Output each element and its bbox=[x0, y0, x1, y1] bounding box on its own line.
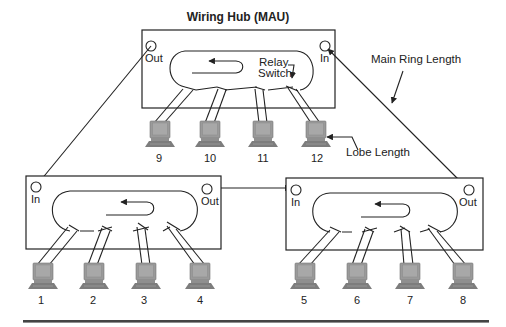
computer-icon bbox=[131, 263, 161, 289]
station-label-6: 6 bbox=[354, 294, 360, 306]
top-hub: Out In Relay Switch bbox=[142, 30, 335, 108]
station-7 bbox=[395, 263, 425, 289]
top-hub-out-label: Out bbox=[145, 52, 163, 64]
station-2 bbox=[79, 263, 109, 289]
computer-icon bbox=[290, 263, 320, 289]
bottom-left-hub-in-label: In bbox=[31, 193, 40, 205]
station-label-10: 10 bbox=[204, 152, 216, 164]
station-label-4: 4 bbox=[197, 294, 203, 306]
station-4 bbox=[185, 263, 215, 289]
bottom-left-hub-out-label: Out bbox=[201, 195, 219, 207]
station-label-1: 1 bbox=[38, 294, 44, 306]
station-label-9: 9 bbox=[156, 152, 162, 164]
station-9 bbox=[145, 121, 175, 147]
top-hub-in-label: In bbox=[320, 52, 329, 64]
station-label-12: 12 bbox=[311, 152, 323, 164]
bottom-right-hub-out-port-icon bbox=[464, 185, 474, 195]
bottom-right-hub-in-label: In bbox=[291, 196, 300, 208]
computer-icon bbox=[195, 121, 225, 147]
bottom-right-hub: In Out bbox=[286, 178, 483, 250]
station-5 bbox=[290, 263, 320, 289]
computer-icon bbox=[248, 121, 278, 147]
token-ring-mau-diagram: Wiring Hub (MAU) Out In Relay Switch 9 bbox=[0, 0, 506, 327]
main-ring-length-label: Main Ring Length bbox=[371, 53, 461, 65]
station-label-8: 8 bbox=[460, 294, 466, 306]
bottom-left-hub: In Out bbox=[26, 176, 221, 249]
station-3 bbox=[131, 263, 161, 289]
station-label-5: 5 bbox=[301, 294, 307, 306]
station-1 bbox=[28, 263, 58, 289]
bottom-right-hub-in-port-icon bbox=[291, 185, 301, 195]
station-10 bbox=[195, 121, 225, 147]
computer-icon bbox=[342, 263, 372, 289]
bottom-divider bbox=[23, 320, 489, 323]
ring-cable-right-to-top bbox=[328, 49, 469, 190]
bottom-left-hub-out-port-icon bbox=[202, 184, 212, 194]
ring-cable-top-to-left bbox=[36, 46, 151, 186]
computer-icon bbox=[28, 263, 58, 289]
computer-icon bbox=[301, 121, 331, 147]
bottom-right-hub-out-label: Out bbox=[459, 196, 477, 208]
station-label-7: 7 bbox=[407, 294, 413, 306]
station-label-3: 3 bbox=[141, 294, 147, 306]
computer-icon bbox=[79, 263, 109, 289]
bottom-left-hub-in-port-icon bbox=[31, 182, 41, 192]
computer-icon bbox=[185, 263, 215, 289]
computer-icon bbox=[145, 121, 175, 147]
station-label-11: 11 bbox=[257, 152, 268, 164]
station-6 bbox=[342, 263, 372, 289]
station-12 bbox=[301, 121, 331, 147]
station-label-2: 2 bbox=[90, 294, 96, 306]
station-8 bbox=[448, 263, 478, 289]
station-11 bbox=[248, 121, 278, 147]
main-ring-length-pointer-icon bbox=[392, 71, 403, 103]
hub-title: Wiring Hub (MAU) bbox=[187, 10, 290, 24]
computer-icon bbox=[448, 263, 478, 289]
bottom-right-hub-box bbox=[286, 178, 483, 250]
computer-icon bbox=[395, 263, 425, 289]
top-hub-box bbox=[142, 30, 335, 108]
lobe-length-label: Lobe Length bbox=[346, 146, 410, 158]
relay-switch-label-line2: Switch bbox=[258, 67, 292, 79]
bottom-left-hub-box bbox=[26, 176, 221, 249]
